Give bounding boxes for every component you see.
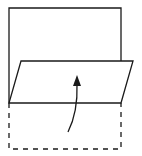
original-position-dashed [9, 103, 121, 149]
fold-diagram [0, 0, 142, 156]
folded-flap [9, 61, 133, 103]
